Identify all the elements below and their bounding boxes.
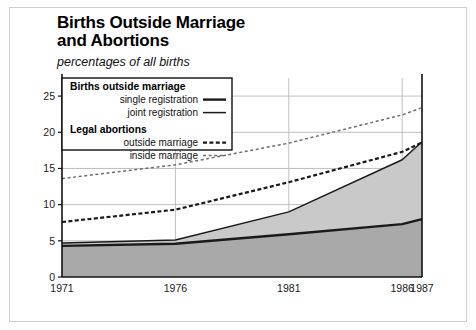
y-tick-label: 20 xyxy=(43,126,55,138)
y-tick-label: 10 xyxy=(43,198,55,210)
chart-canvas: 0510152025 19711976198119861987 Births o… xyxy=(0,0,476,330)
x-tick-label: 1976 xyxy=(164,282,188,294)
x-axis-ticklabels: 19711976198119861987 xyxy=(50,282,434,294)
x-tick-label: 1971 xyxy=(50,282,74,294)
y-tick-label: 15 xyxy=(43,162,55,174)
legend-group-heading: Legal abortions xyxy=(70,124,147,135)
legend-group-heading: Births outside marriage xyxy=(70,81,186,92)
y-tick-label: 25 xyxy=(43,90,55,102)
legend-item-label: inside marriage xyxy=(130,150,199,161)
y-tick-label: 5 xyxy=(49,235,55,247)
area-fills xyxy=(62,142,422,277)
plot-area-wrapper: 0510152025 19711976198119861987 Births o… xyxy=(0,0,476,330)
legend-item-label: outside marriage xyxy=(124,137,199,148)
x-tick-label: 1987 xyxy=(410,282,434,294)
legend-item-label: joint registration xyxy=(126,107,198,118)
legend-item-label: single registration xyxy=(120,94,198,105)
y-axis-ticklabels: 0510152025 xyxy=(43,90,62,283)
y-tick-label: 0 xyxy=(49,271,55,283)
x-tick-label: 1981 xyxy=(277,282,301,294)
chart-figure: Births Outside Marriage and Abortions pe… xyxy=(0,0,476,330)
chart-legend: Births outside marriagesingle registrati… xyxy=(62,78,232,161)
